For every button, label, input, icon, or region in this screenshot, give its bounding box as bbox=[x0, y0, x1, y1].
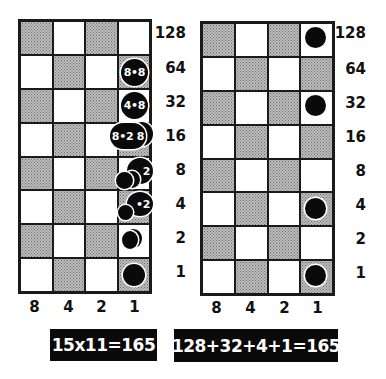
cell bbox=[300, 125, 333, 159]
col-label: 1 bbox=[118, 298, 151, 316]
cell bbox=[118, 21, 151, 55]
cell bbox=[268, 125, 301, 159]
cell bbox=[202, 125, 235, 159]
col-label: 2 bbox=[85, 298, 118, 316]
row-label: 32 bbox=[332, 94, 366, 112]
cell bbox=[202, 226, 235, 260]
counter: 4•8 bbox=[121, 92, 148, 119]
cell bbox=[268, 23, 301, 57]
right-formula: 128+32+4+1=165 bbox=[174, 329, 338, 362]
row-label: 128 bbox=[332, 24, 366, 42]
row-label: 64 bbox=[332, 60, 366, 78]
row-label: 64 bbox=[152, 59, 186, 77]
row-label: 1 bbox=[152, 263, 186, 281]
cell bbox=[20, 123, 53, 157]
counter bbox=[118, 205, 133, 220]
cell bbox=[85, 21, 118, 55]
cell bbox=[268, 192, 301, 226]
cell bbox=[268, 226, 301, 260]
counter bbox=[305, 265, 326, 286]
cell bbox=[53, 190, 86, 224]
cell bbox=[53, 157, 86, 191]
cell bbox=[300, 159, 333, 193]
col-label: 1 bbox=[301, 299, 334, 317]
cell bbox=[20, 89, 53, 123]
cell bbox=[20, 224, 53, 258]
cell bbox=[53, 21, 86, 55]
row-label: 16 bbox=[332, 128, 366, 146]
counter bbox=[305, 27, 326, 48]
cell bbox=[235, 57, 268, 91]
counter bbox=[116, 172, 133, 189]
col-label: 8 bbox=[18, 298, 51, 316]
cell bbox=[85, 190, 118, 224]
cell bbox=[268, 91, 301, 125]
row-label: 1 bbox=[332, 264, 366, 282]
cell bbox=[20, 190, 53, 224]
row-label: 4 bbox=[332, 196, 366, 214]
cell bbox=[235, 159, 268, 193]
counter bbox=[305, 95, 326, 116]
cell bbox=[53, 123, 86, 157]
col-label: 4 bbox=[234, 299, 267, 317]
col-label: 4 bbox=[52, 298, 85, 316]
cell bbox=[202, 260, 235, 294]
counter bbox=[305, 198, 326, 219]
cell bbox=[202, 159, 235, 193]
cell bbox=[85, 55, 118, 89]
cell bbox=[20, 258, 53, 292]
row-label: 8 bbox=[152, 161, 186, 179]
cell bbox=[300, 57, 333, 91]
row-label: 8 bbox=[332, 162, 366, 180]
counter bbox=[123, 264, 145, 286]
cell bbox=[235, 192, 268, 226]
cell bbox=[53, 55, 86, 89]
cell bbox=[268, 159, 301, 193]
cell bbox=[85, 258, 118, 292]
cell bbox=[202, 23, 235, 57]
cell bbox=[53, 258, 86, 292]
col-label: 8 bbox=[200, 299, 233, 317]
right-board bbox=[200, 21, 335, 296]
left-formula: 15x11=165 bbox=[50, 329, 157, 361]
cell bbox=[202, 91, 235, 125]
row-label: 2 bbox=[332, 230, 366, 248]
cell bbox=[85, 89, 118, 123]
cell bbox=[235, 23, 268, 57]
cell bbox=[235, 260, 268, 294]
counter bbox=[122, 231, 138, 249]
row-label: 16 bbox=[152, 127, 186, 145]
cell bbox=[268, 260, 301, 294]
cell bbox=[53, 89, 86, 123]
cell bbox=[235, 125, 268, 159]
cell bbox=[20, 21, 53, 55]
row-label: 2 bbox=[152, 229, 186, 247]
cell bbox=[202, 192, 235, 226]
cell bbox=[85, 157, 118, 191]
cell bbox=[85, 224, 118, 258]
cell bbox=[268, 57, 301, 91]
cell bbox=[20, 55, 53, 89]
cell bbox=[202, 57, 235, 91]
col-label: 2 bbox=[268, 299, 301, 317]
cell bbox=[300, 226, 333, 260]
cell bbox=[53, 224, 86, 258]
counter: 8•8 bbox=[121, 59, 148, 86]
counter: 8•2 8 bbox=[110, 123, 146, 149]
cell bbox=[20, 157, 53, 191]
cell bbox=[235, 226, 268, 260]
cell bbox=[235, 91, 268, 125]
row-label: 128 bbox=[152, 24, 186, 42]
row-label: 4 bbox=[152, 195, 186, 213]
row-label: 32 bbox=[152, 93, 186, 111]
